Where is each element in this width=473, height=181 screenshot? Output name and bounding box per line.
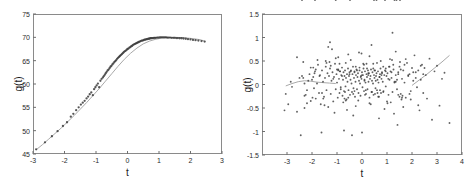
- y-tick-label: -1.5: [247, 152, 259, 159]
- x-tick-label: -1: [334, 158, 340, 165]
- y-tick-label: -0.5: [247, 105, 259, 112]
- y-tick-label: 50: [22, 127, 30, 134]
- x-tick-label: 1: [385, 158, 389, 165]
- x-tick-label: 3: [220, 157, 224, 164]
- plot-area-left: [0, 0, 236, 181]
- y-tick-label: 75: [22, 11, 30, 18]
- x-tick-label: -2: [309, 158, 315, 165]
- figure-container: -3-2-1012345505560657075 t g(t) -3-2-101…: [0, 0, 473, 181]
- y-tick-label: 1.5: [249, 11, 259, 18]
- y-axis-title-left: g(t): [13, 77, 24, 92]
- y-tick-label: 0.5: [249, 58, 259, 65]
- y-tick-label: -1: [253, 128, 259, 135]
- chart-panel-right: -3-2-101234-1.5-1-0.500.511.5 t g(t): [236, 0, 473, 181]
- y-tick-label: 70: [22, 34, 30, 41]
- x-tick-label: -1: [93, 157, 99, 164]
- x-tick-label: 2: [189, 157, 193, 164]
- x-tick-label: -3: [30, 157, 36, 164]
- y-tick-label: 65: [22, 57, 30, 64]
- y-tick-label: 55: [22, 104, 30, 111]
- x-tick-label: -3: [284, 158, 290, 165]
- x-tick-label: 0: [126, 157, 130, 164]
- y-axis-title-right: g(t): [242, 77, 253, 92]
- y-tick-label: 1: [255, 34, 259, 41]
- y-tick-label: 45: [22, 151, 30, 158]
- plot-area-right: [236, 0, 473, 181]
- x-axis-title-left: t: [126, 167, 129, 178]
- x-tick-label: 2: [410, 158, 414, 165]
- chart-panel-left: -3-2-1012345505560657075 t g(t): [0, 0, 236, 181]
- y-tick-label: 0: [255, 81, 259, 88]
- x-tick-label: -2: [61, 157, 67, 164]
- x-tick-label: 1: [157, 157, 161, 164]
- x-tick-label: 4: [460, 158, 464, 165]
- x-axis-title-right: t: [361, 168, 364, 179]
- x-tick-label: 3: [435, 158, 439, 165]
- x-tick-label: 0: [360, 158, 364, 165]
